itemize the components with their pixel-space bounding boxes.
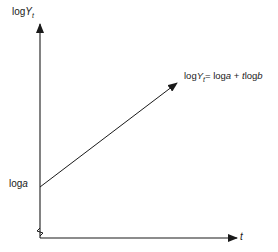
equation-label: logYt= loga + tlogb xyxy=(184,70,263,83)
y-axis-label: logYt xyxy=(12,6,34,19)
x-axis-label: t xyxy=(240,231,243,242)
growth-line xyxy=(40,83,177,187)
diagram-canvas xyxy=(0,0,278,252)
intercept-label: loga xyxy=(9,178,28,189)
